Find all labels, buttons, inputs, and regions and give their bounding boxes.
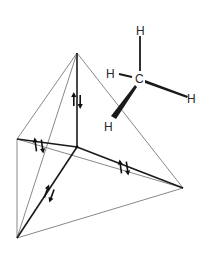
atom-h-right: H <box>187 92 196 106</box>
bond-c-h-left <box>119 74 132 77</box>
edge-apex-left <box>17 53 77 139</box>
tetrahedral-orbital-diagram: C H H H H <box>0 0 208 255</box>
wedge-bond-c-h-right <box>145 80 188 98</box>
atom-h-bottom: H <box>104 120 113 134</box>
bond-center-bottom <box>17 147 77 238</box>
atom-h-left: H <box>106 67 115 81</box>
atom-carbon: C <box>135 72 144 86</box>
electron-pair-bottom-icon <box>41 184 58 204</box>
edge-bottom-right <box>17 188 183 238</box>
methane-structure: C H H H H <box>104 24 196 134</box>
atom-h-top: H <box>136 24 145 38</box>
center-point <box>76 146 79 149</box>
wedge-bond-c-h-bottom <box>111 85 137 119</box>
